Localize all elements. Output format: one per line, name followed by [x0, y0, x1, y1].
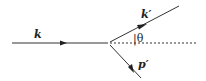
diagram-lines	[0, 0, 206, 81]
label-k-prime: k′	[141, 9, 152, 20]
incoming-arrowhead-icon	[60, 41, 67, 46]
label-theta: |θ	[133, 33, 143, 44]
outgoing-arrowhead-icon	[137, 24, 147, 30]
label-k: k	[34, 29, 42, 40]
scattering-diagram: k k′ |θ p′	[0, 0, 206, 81]
label-p-prime: p′	[138, 59, 149, 70]
recoil-p-prime-line	[110, 45, 141, 78]
